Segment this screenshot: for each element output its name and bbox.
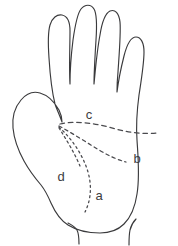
crease-label-a: a <box>95 188 103 203</box>
crease-label-b: b <box>133 151 140 166</box>
hand-outline-path <box>13 5 144 233</box>
crease-label-c: c <box>86 107 93 122</box>
palm-diagram: c b d a <box>0 0 178 246</box>
hand-illustration: c b d a <box>0 0 178 246</box>
crease-label-d: d <box>57 169 64 184</box>
wrist-mark-right <box>129 219 136 245</box>
